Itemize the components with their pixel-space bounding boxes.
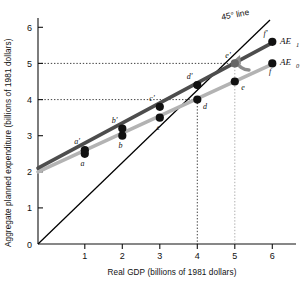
point-label-c: c [157, 123, 161, 132]
point-label-b: b [119, 141, 123, 150]
y-tick-label-1: 1 [27, 203, 32, 213]
x-axis-tick-labels: 1 2 3 4 5 6 [82, 251, 275, 261]
point-label-a: a [81, 159, 85, 168]
point-label-f-prime: f' [264, 29, 268, 38]
ae1-point-labels: a' b' c' d' e' f' [74, 29, 268, 146]
series-label-ae1-text: AE [279, 36, 291, 46]
data-point-e-prime [231, 59, 239, 67]
y-tick-label-6: 6 [27, 23, 32, 33]
y-tick-label-3: 3 [27, 131, 32, 141]
data-point-d [193, 96, 201, 104]
series-label-ae1-subscript: 1 [296, 41, 299, 48]
x-tick-label-3: 3 [157, 251, 162, 261]
data-point-d-prime [193, 81, 201, 89]
y-axis-title: Aggregate planned expenditure (billions … [4, 38, 13, 247]
series-label-ae0-subscript: 0 [296, 62, 300, 69]
chart-canvas: Aggregate planned expenditure (billions … [0, 0, 305, 284]
data-point-a-prime [81, 146, 89, 154]
forty-five-degree-line-label: 45° line [220, 7, 250, 22]
point-label-f: f [269, 67, 273, 76]
data-point-c-prime [156, 103, 164, 111]
x-tick-label-6: 6 [270, 251, 275, 261]
y-tick-label-2: 2 [27, 167, 32, 177]
x-tick-label-2: 2 [120, 251, 125, 261]
point-label-e: e [241, 83, 245, 92]
point-label-d: d [203, 102, 208, 111]
ae0-point-labels: a b c d e f [81, 67, 273, 168]
series-label-ae0: AE 0 [279, 57, 300, 69]
point-label-c-prime: c' [149, 94, 155, 103]
x-axis-ticks [85, 244, 272, 249]
x-tick-label-1: 1 [82, 251, 87, 261]
y-tick-label-5: 5 [27, 59, 32, 69]
x-axis-title: Real GDP (billions of 1981 dollars) [108, 268, 237, 277]
x-tick-label-4: 4 [195, 251, 200, 261]
point-label-b-prime: b' [112, 116, 118, 125]
data-point-b-prime [118, 124, 126, 132]
y-tick-label-4: 4 [27, 95, 32, 105]
series-label-ae0-text: AE [279, 57, 291, 67]
point-label-d-prime: d' [187, 72, 193, 81]
chart-figure: Aggregate planned expenditure (billions … [0, 0, 305, 284]
point-label-e-prime: e' [225, 51, 231, 60]
y-tick-label-0: 0 [27, 240, 32, 250]
y-axis-ticks [38, 27, 43, 208]
point-label-a-prime: a' [74, 137, 80, 146]
y-axis-tick-labels: 6 5 4 3 2 1 0 [27, 23, 32, 250]
data-point-b [118, 132, 126, 140]
series-label-ae1: AE 1 [279, 36, 299, 48]
data-point-f-prime [268, 38, 276, 46]
data-point-c [156, 114, 164, 122]
data-point-e [231, 77, 239, 85]
x-tick-label-5: 5 [232, 251, 237, 261]
